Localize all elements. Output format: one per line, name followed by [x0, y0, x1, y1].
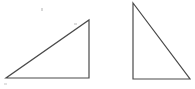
scan-speck-lower-left-icon: [4, 83, 7, 85]
diagram-background: [0, 0, 195, 89]
scan-speck-upper-left-icon: [41, 8, 43, 11]
triangles-diagram: [0, 0, 195, 89]
figure-canvas: [0, 0, 195, 89]
scan-speck-upper-mid-icon: [74, 23, 77, 25]
